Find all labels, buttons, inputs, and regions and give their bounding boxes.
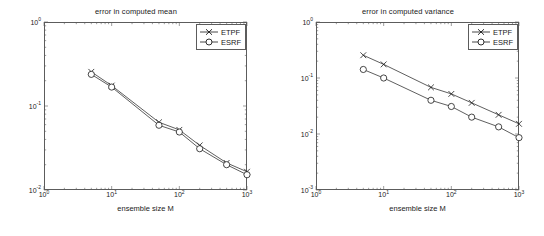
x-tick-mean-3: 103 — [242, 191, 253, 198]
series-esrf — [360, 66, 522, 140]
figure-root: error in computed mean 100 10-1 10-2 100… — [0, 0, 544, 236]
legend-mean: ETPF ESRF — [196, 24, 246, 50]
legend-label-etpf-variance: ETPF — [491, 28, 512, 37]
legend-marker-x-icon — [471, 27, 491, 37]
legend-label-etpf-mean: ETPF — [219, 28, 240, 37]
x-axis-label-variance: ensemble size M — [316, 204, 519, 213]
x-tick-mean-2: 102 — [174, 191, 185, 198]
series-etpf — [360, 52, 522, 126]
panel-title-mean: error in computed mean — [0, 7, 272, 16]
y-tick-variance-1: 10-1 — [273, 74, 313, 81]
x-tick-variance-0: 100 — [311, 191, 322, 198]
y-tick-variance-3: 10-3 — [273, 187, 313, 194]
x-axis-ticks-variance: 100 101 102 103 — [316, 190, 519, 204]
legend-marker-circle-icon — [199, 37, 219, 47]
legend-marker-x-icon — [199, 27, 219, 37]
legend-item-esrf-variance[interactable]: ESRF — [471, 37, 513, 47]
y-tick-mean-1: 10-1 — [1, 103, 41, 110]
y-tick-mean-0: 100 — [1, 19, 41, 26]
x-tick-mean-1: 101 — [106, 191, 117, 198]
legend-item-etpf-mean[interactable]: ETPF — [199, 27, 241, 37]
legend-label-esrf-mean: ESRF — [219, 38, 241, 47]
y-tick-variance-0: 100 — [273, 19, 313, 26]
y-axis-ticks-variance: 100 10-1 10-2 10-3 — [272, 22, 313, 190]
x-tick-variance-1: 101 — [378, 191, 389, 198]
x-axis-label-mean: ensemble size M — [44, 204, 247, 213]
y-tick-mean-2: 10-2 — [1, 187, 41, 194]
legend-item-esrf-mean[interactable]: ESRF — [199, 37, 241, 47]
x-tick-variance-2: 102 — [446, 191, 457, 198]
panel-error-in-computed-variance: error in computed variance 100 10-1 10-2… — [272, 0, 544, 236]
x-tick-variance-3: 103 — [514, 191, 525, 198]
legend-item-etpf-variance[interactable]: ETPF — [471, 27, 513, 37]
legend-label-esrf-variance: ESRF — [491, 38, 513, 47]
legend-marker-circle-icon — [471, 37, 491, 47]
panel-title-variance: error in computed variance — [272, 7, 544, 16]
x-axis-ticks-mean: 100 101 102 103 — [44, 190, 247, 204]
x-tick-mean-0: 100 — [39, 191, 50, 198]
y-axis-ticks-mean: 100 10-1 10-2 — [0, 22, 41, 190]
series-esrf — [88, 71, 250, 178]
legend-variance: ETPF ESRF — [468, 24, 518, 50]
y-tick-variance-2: 10-2 — [273, 130, 313, 137]
panel-error-in-computed-mean: error in computed mean 100 10-1 10-2 100… — [0, 0, 272, 236]
